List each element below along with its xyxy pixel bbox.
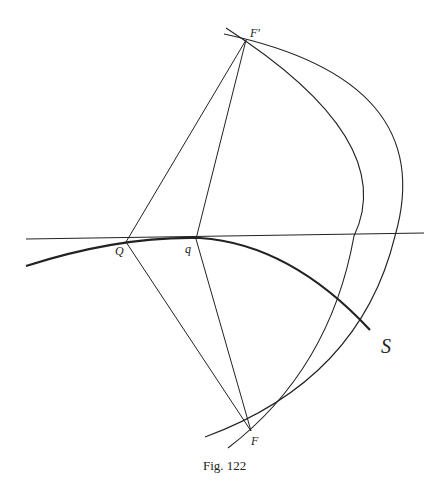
line-q-fprime <box>126 40 246 242</box>
label-curve-s: S <box>381 335 391 358</box>
geometric-construction <box>0 0 444 491</box>
label-f: F <box>251 434 258 449</box>
line-sq-fprime <box>196 40 246 239</box>
line-sq-f <box>196 239 251 431</box>
figure-caption: Fig. 122 <box>203 458 246 474</box>
label-f-prime: F' <box>250 26 260 41</box>
line-q-f <box>126 242 251 431</box>
label-q-lower: q <box>185 242 191 257</box>
tangent-line <box>26 233 424 239</box>
inner-arc <box>226 28 364 448</box>
curve-s <box>26 238 370 330</box>
label-q-upper: Q <box>115 244 124 259</box>
